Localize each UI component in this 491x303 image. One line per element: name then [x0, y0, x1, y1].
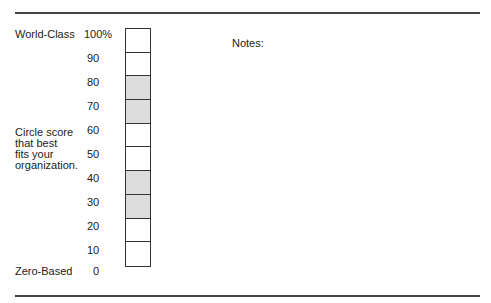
top-label: World-Class [15, 28, 75, 40]
score-cell-90-100[interactable] [126, 29, 150, 53]
tick-label: 80 [87, 76, 117, 88]
notes-label: Notes: [232, 37, 264, 49]
score-cell-80-90[interactable] [126, 53, 150, 77]
score-cell-20-30[interactable] [126, 195, 150, 219]
tick-label: 30 [87, 196, 117, 208]
score-cell-40-50[interactable] [126, 147, 150, 171]
score-cell-70-80[interactable] [126, 76, 150, 100]
tick-label: 50 [87, 148, 117, 160]
tick-label: 20 [87, 220, 117, 232]
tick-label: 90 [87, 52, 117, 64]
tick-label: 60 [87, 124, 117, 136]
score-cell-0-10[interactable] [126, 242, 150, 266]
score-cell-30-40[interactable] [126, 171, 150, 195]
tick-label: 100% [84, 28, 114, 40]
instruction-line: organization. [15, 159, 78, 171]
score-cell-50-60[interactable] [126, 124, 150, 148]
tick-label: 10 [87, 244, 117, 256]
score-cell-10-20[interactable] [126, 219, 150, 243]
score-cell-60-70[interactable] [126, 100, 150, 124]
top-divider [15, 12, 480, 14]
bottom-divider [15, 295, 480, 297]
score-column [125, 28, 151, 267]
tick-label: 0 [93, 265, 123, 277]
tick-label: 70 [87, 100, 117, 112]
tick-label: 40 [87, 172, 117, 184]
bottom-label: Zero-Based [15, 265, 72, 277]
